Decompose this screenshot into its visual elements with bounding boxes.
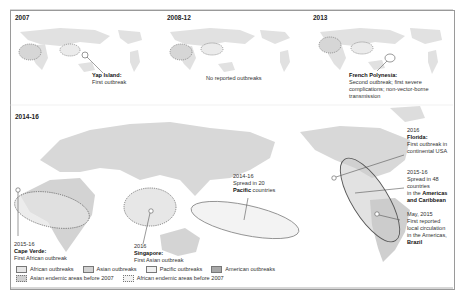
annotation-no-outbreaks: No reported outbreaks <box>206 75 262 82</box>
panel-title-2013: 2013 <box>313 14 327 21</box>
annotation-cape-verde: 2015-16 Cape Verde: First African outbre… <box>14 241 67 262</box>
swatch-icon <box>123 275 134 282</box>
swatch-icon <box>83 266 94 273</box>
legend: African outbreaks Asian outbreaks Pacifi… <box>16 265 275 283</box>
annotation-yap-island: Yap Island: First outbreak <box>92 72 126 86</box>
legend-item-african-endemic: African endemic areas before 2007 <box>123 274 224 283</box>
place-yap-island: Yap Island: <box>92 72 122 78</box>
mini-map-2013 <box>319 28 442 74</box>
legend-item-asian-endemic: Asian endemic areas before 2007 <box>16 274 114 283</box>
legend-item-pacific-outbreaks: Pacific outbreaks <box>146 265 203 274</box>
panel-title-2007: 2007 <box>15 14 29 21</box>
swatch-icon <box>211 266 222 273</box>
swatch-icon <box>16 275 27 282</box>
legend-item-african-outbreaks: African outbreaks <box>16 265 74 274</box>
annotation-brazil: May, 2015 First reported local circulati… <box>407 211 447 246</box>
panel-title-2014-16: 2014-16 <box>15 113 39 120</box>
panel-title-2008-12: 2008-12 <box>167 14 191 21</box>
main-map <box>11 106 425 262</box>
mini-map-2008-12 <box>170 28 290 72</box>
mini-map-2007 <box>19 28 142 73</box>
swatch-icon <box>16 266 27 273</box>
legend-item-american-outbreaks: American outbreaks <box>211 265 275 274</box>
annotation-singapore: 2016 Singapore: First Asian outbreak <box>134 243 183 264</box>
annotation-florida: 2016 Florida: First outbreak in continen… <box>407 127 447 155</box>
swatch-icon <box>146 266 157 273</box>
annotation-pacific: 2014-16 Spread in 20 Pacific countries <box>233 173 275 194</box>
map-canvas <box>0 0 465 295</box>
annotation-french-polynesia: French Polynesia: Second outbreak; first… <box>349 72 429 100</box>
annotation-americas: 2015-16 Spread in 48 countries in the Am… <box>407 169 447 204</box>
legend-item-asian-outbreaks: Asian outbreaks <box>83 265 137 274</box>
